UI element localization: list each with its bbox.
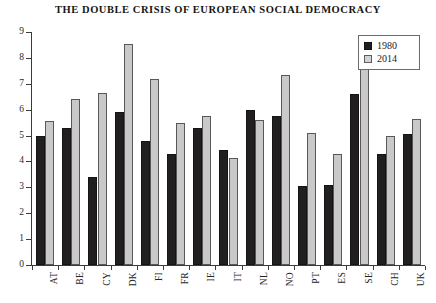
- bar-UK-1980: [403, 134, 412, 265]
- bar-CH-1980: [377, 154, 386, 265]
- bar-PT-2014: [307, 133, 316, 265]
- y-axis-tick-label: 2: [2, 208, 24, 218]
- bar-NO-1980: [272, 116, 281, 265]
- legend-swatch-icon-2014: [364, 55, 372, 63]
- bar-SE-1980: [350, 94, 359, 265]
- y-axis-tick-label: 9: [2, 27, 24, 37]
- x-axis-label-BE: BE: [75, 272, 85, 285]
- y-axis-tick: [26, 84, 31, 85]
- x-axis-label-FI: FI: [154, 272, 164, 281]
- y-axis-tick-label: 8: [2, 53, 24, 63]
- bar-IT-1980: [219, 150, 228, 265]
- bar-CY-2014: [98, 93, 107, 265]
- bar-IT-2014: [229, 158, 238, 265]
- y-axis-tick: [26, 265, 31, 266]
- x-axis-tick: [58, 266, 59, 270]
- x-axis-label-PT: PT: [311, 272, 321, 284]
- x-axis-tick: [268, 266, 269, 270]
- y-axis-tick: [26, 136, 31, 137]
- legend-item-1980[interactable]: 1980: [364, 39, 415, 52]
- bar-NL-2014: [255, 120, 264, 265]
- bar-UK-2014: [412, 119, 421, 265]
- y-axis-tick: [26, 161, 31, 162]
- bar-CY-1980: [88, 177, 97, 265]
- bar-AT-2014: [45, 121, 54, 265]
- chart-legend: 1980 2014: [358, 35, 420, 70]
- bar-ES-1980: [324, 185, 333, 265]
- x-axis-tick: [137, 266, 138, 270]
- bar-FR-2014: [176, 123, 185, 265]
- y-axis-tick-label: 0: [2, 260, 24, 270]
- y-axis-tick-label: 5: [2, 131, 24, 141]
- x-axis-label-IT: IT: [233, 272, 243, 282]
- x-axis-label-IE: IE: [206, 272, 216, 282]
- x-axis-label-DK: DK: [128, 272, 138, 286]
- bar-CH-2014: [386, 136, 395, 265]
- x-axis-tick: [373, 266, 374, 270]
- bar-FR-1980: [167, 154, 176, 265]
- y-axis-tick: [26, 32, 31, 33]
- x-axis-tick: [346, 266, 347, 270]
- x-axis-tick: [320, 266, 321, 270]
- x-axis-label-CH: CH: [390, 272, 400, 286]
- bar-NO-2014: [281, 75, 290, 265]
- chart-title: THE DOUBLE CRISIS OF EUROPEAN SOCIAL DEM…: [0, 4, 436, 15]
- y-axis-tick-label: 4: [2, 156, 24, 166]
- x-axis-label-ES: ES: [337, 272, 347, 284]
- y-axis-tick: [26, 239, 31, 240]
- x-axis-label-NO: NO: [285, 272, 295, 286]
- x-axis-label-AT: AT: [49, 272, 59, 284]
- y-axis-tick-label: 3: [2, 182, 24, 192]
- legend-label-2014: 2014: [377, 54, 397, 64]
- bar-FI-2014: [150, 79, 159, 265]
- bar-PT-1980: [298, 186, 307, 265]
- y-axis-tick: [26, 213, 31, 214]
- bar-NL-1980: [246, 110, 255, 265]
- bar-BE-2014: [71, 99, 80, 265]
- x-axis-tick: [189, 266, 190, 270]
- y-axis-tick-label: 7: [2, 79, 24, 89]
- x-axis-label-NL: NL: [259, 272, 269, 285]
- bar-FI-1980: [141, 141, 150, 265]
- legend-swatch-icon-1980: [364, 42, 372, 50]
- x-axis-line: [31, 265, 425, 266]
- x-axis-tick: [111, 266, 112, 270]
- bar-chart: THE DOUBLE CRISIS OF EUROPEAN SOCIAL DEM…: [0, 0, 436, 303]
- x-axis-tick: [215, 266, 216, 270]
- bar-BE-1980: [62, 128, 71, 265]
- bar-ES-2014: [333, 154, 342, 265]
- x-axis-tick: [84, 266, 85, 270]
- legend-item-2014[interactable]: 2014: [364, 52, 415, 65]
- x-axis-tick: [425, 266, 426, 270]
- y-axis-tick: [26, 187, 31, 188]
- legend-label-1980: 1980: [377, 41, 397, 51]
- bar-DK-2014: [124, 44, 133, 265]
- bar-SE-2014: [360, 66, 369, 265]
- y-axis-tick-label: 1: [2, 234, 24, 244]
- x-axis-tick: [163, 266, 164, 270]
- x-axis-tick: [294, 266, 295, 270]
- x-axis-tick: [32, 266, 33, 270]
- x-axis-label-CY: CY: [102, 272, 112, 286]
- x-axis-label-UK: UK: [416, 272, 426, 286]
- y-axis-tick-label: 6: [2, 105, 24, 115]
- bar-AT-1980: [36, 136, 45, 265]
- bar-DK-1980: [115, 112, 124, 265]
- x-axis-tick: [399, 266, 400, 270]
- y-axis-tick: [26, 58, 31, 59]
- bar-IE-2014: [202, 116, 211, 265]
- x-axis-label-FR: FR: [180, 272, 190, 284]
- x-axis-label-SE: SE: [364, 272, 374, 284]
- y-axis-tick: [26, 110, 31, 111]
- x-axis-tick: [242, 266, 243, 270]
- bar-IE-1980: [193, 128, 202, 265]
